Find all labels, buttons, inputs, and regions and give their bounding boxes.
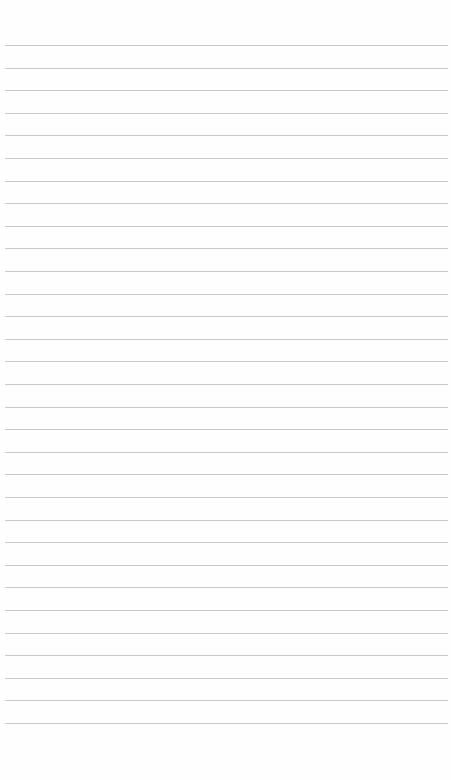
ruled-line [5, 565, 448, 566]
ruled-line [5, 248, 448, 249]
ruled-line [5, 407, 448, 408]
ruled-line [5, 655, 448, 656]
ruled-line [5, 633, 448, 634]
ruled-line [5, 181, 448, 182]
ruled-line [5, 294, 448, 295]
ruled-line [5, 158, 448, 159]
ruled-line [5, 723, 448, 724]
ruled-line [5, 339, 448, 340]
ruled-line [5, 700, 448, 701]
ruled-line [5, 429, 448, 430]
ruled-line [5, 226, 448, 227]
ruled-line [5, 45, 448, 46]
ruled-line [5, 474, 448, 475]
ruled-line [5, 587, 448, 588]
ruled-line [5, 203, 448, 204]
ruled-line [5, 361, 448, 362]
ruled-line [5, 610, 448, 611]
lined-paper-page [0, 0, 451, 780]
ruled-line [5, 384, 448, 385]
ruled-line [5, 452, 448, 453]
ruled-line [5, 497, 448, 498]
ruled-line [5, 90, 448, 91]
ruled-line [5, 271, 448, 272]
ruled-line [5, 520, 448, 521]
ruled-line [5, 316, 448, 317]
ruled-line [5, 542, 448, 543]
ruled-line [5, 135, 448, 136]
ruled-line [5, 113, 448, 114]
ruled-line [5, 678, 448, 679]
ruled-line [5, 68, 448, 69]
